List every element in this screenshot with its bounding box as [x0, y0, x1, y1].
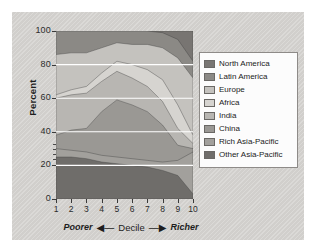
- legend-item[interactable]: China: [204, 122, 294, 135]
- y-axis: Percent 100806040200: [0, 0, 56, 252]
- x-tick-label: 6: [124, 205, 140, 214]
- y-axis-label: Percent: [27, 58, 38, 138]
- x-tick-label: 9: [170, 205, 186, 214]
- x-tick-label: 7: [139, 205, 155, 214]
- x-axis: 12345678910: [56, 199, 193, 215]
- arrow-left-icon: ◀—: [97, 223, 115, 232]
- legend-item-label: Latin America: [219, 73, 267, 81]
- x-tick-label: 4: [94, 205, 110, 214]
- x-tick-mark: [132, 199, 133, 203]
- legend-swatch-icon: [204, 138, 215, 146]
- x-tick-label: 3: [78, 205, 94, 214]
- y-tick-label: 80: [41, 60, 51, 69]
- legend-swatch-icon: [204, 125, 215, 133]
- legend-swatch-icon: [204, 60, 215, 68]
- legend-item[interactable]: Rich Asia-Pacific: [204, 135, 294, 148]
- x-axis-caption: Poorer ◀— Decile —▶ Richer: [56, 219, 206, 235]
- legend-swatch-icon: [204, 86, 215, 94]
- x-tick-mark: [71, 199, 72, 203]
- legend-item[interactable]: Europe: [204, 83, 294, 96]
- legend-item[interactable]: North America: [204, 57, 294, 70]
- x-caption-richer: Richer: [170, 222, 198, 232]
- x-tick-mark: [147, 199, 148, 203]
- x-caption-decile: Decile: [118, 222, 144, 233]
- legend-item-label: Europe: [219, 86, 245, 94]
- x-tick-mark: [117, 199, 118, 203]
- stacked-area-svg: [56, 31, 193, 199]
- chart-figure: Percent 100806040200 12345678910 Poorer …: [0, 0, 316, 252]
- legend-swatch-icon: [204, 73, 215, 81]
- x-tick-mark: [163, 199, 164, 203]
- x-tick-label: 8: [155, 205, 171, 214]
- legend-item-label: Rich Asia-Pacific: [219, 138, 279, 146]
- legend-item[interactable]: India: [204, 109, 294, 122]
- legend-swatch-icon: [204, 99, 215, 107]
- y-tick-label: 20: [41, 160, 51, 169]
- arrow-right-icon: —▶: [149, 223, 167, 232]
- x-tick-label: 5: [109, 205, 125, 214]
- y-tick-label: 100: [35, 26, 51, 35]
- x-tick-label: 2: [63, 205, 79, 214]
- legend-item[interactable]: Other Asia-Pacific: [204, 148, 294, 161]
- legend-item-label: Africa: [219, 99, 239, 107]
- y-tick-label: 0: [46, 194, 51, 203]
- x-tick-mark: [193, 199, 194, 203]
- legend-item-label: North America: [219, 60, 270, 68]
- chart-legend: North AmericaLatin AmericaEuropeAfricaIn…: [199, 52, 298, 168]
- legend-item-label: China: [219, 125, 240, 133]
- legend-swatch-icon: [204, 112, 215, 120]
- legend-swatch-icon: [204, 151, 215, 159]
- y-tick-label: 40: [41, 127, 51, 136]
- x-caption-poorer: Poorer: [64, 222, 93, 232]
- x-tick-mark: [86, 199, 87, 203]
- x-tick-mark: [102, 199, 103, 203]
- legend-item[interactable]: Latin America: [204, 70, 294, 83]
- legend-item-label: India: [219, 112, 236, 120]
- y-tick-label: 60: [41, 93, 51, 102]
- legend-item[interactable]: Africa: [204, 96, 294, 109]
- plot-area: [56, 31, 193, 199]
- x-tick-mark: [178, 199, 179, 203]
- x-tick-mark: [56, 199, 57, 203]
- x-tick-label: 1: [48, 205, 64, 214]
- legend-item-label: Other Asia-Pacific: [219, 151, 283, 159]
- x-tick-label: 10: [185, 205, 201, 214]
